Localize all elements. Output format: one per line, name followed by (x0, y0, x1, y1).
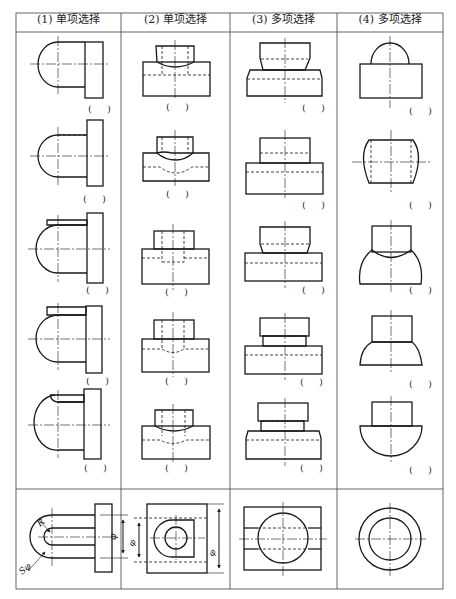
answer-slot-c1-r3[interactable]: ( ) (86, 284, 115, 295)
answer-slot-c1-r5[interactable]: ( ) (84, 462, 113, 473)
answer-slot-c3-r1[interactable]: ( ) (302, 102, 331, 113)
sphere-diameter-label: Sφ (17, 560, 34, 576)
answer-slot-c2-r3[interactable]: ( ) (165, 286, 194, 297)
col4-option-1 (360, 36, 422, 108)
col2-option-1 (143, 40, 210, 100)
answer-slot-c2-r5[interactable]: ( ) (165, 462, 194, 473)
answer-slot-c2-r2[interactable]: ( ) (166, 188, 195, 199)
drawing-svg: .o{stroke:#1a1a1a;stroke-width:1.3;fill:… (0, 0, 456, 599)
reference-view-col2 (134, 504, 224, 573)
diameter-label-col1: φ (108, 533, 118, 540)
answer-slot-c3-r3[interactable]: ( ) (302, 284, 331, 295)
col1-option-5 (28, 389, 110, 459)
col3-option-4 (245, 313, 322, 380)
answer-slot-c4-r3[interactable]: ( ) (409, 284, 438, 295)
answer-slot-c1-r1[interactable]: ( ) (88, 103, 117, 114)
col1-option-2 (30, 120, 110, 186)
col2-option-2 (143, 130, 209, 186)
col4-option-5 (360, 396, 422, 462)
radius-label: R (34, 516, 47, 529)
col3-option-2 (246, 130, 323, 198)
answer-slot-c4-r5[interactable]: ( ) (409, 464, 438, 475)
answer-slot-c4-r4[interactable]: ( ) (409, 378, 438, 389)
col2-option-4 (142, 312, 209, 377)
answer-slot-c3-r2[interactable]: ( ) (302, 199, 331, 210)
answer-slot-c3-r5[interactable]: ( ) (300, 462, 329, 473)
col1-option-3 (28, 213, 110, 283)
reference-view-col4 (355, 503, 426, 576)
table-grid (16, 13, 443, 589)
diameter-label-right: φ (206, 547, 218, 558)
drawing-sheet: (1) 单项选择 (2) 单项选择 (3) 多项选择 (4) 多项选择 .o{s… (0, 0, 456, 599)
reference-view-col3 (239, 502, 327, 576)
col1-option-1 (30, 36, 110, 98)
col3-option-5 (246, 398, 321, 466)
answer-slot-c1-r2[interactable]: ( ) (83, 193, 112, 204)
col4-option-4 (360, 310, 422, 372)
answer-slot-c2-r4[interactable]: ( ) (165, 375, 194, 386)
answer-slot-c1-r4[interactable]: ( ) (86, 375, 115, 386)
col1-option-4 (28, 303, 110, 373)
answer-slot-c3-r4[interactable]: ( ) (300, 376, 329, 387)
answer-slot-c4-r1[interactable]: ( ) (409, 105, 438, 116)
col3-option-1 (247, 38, 322, 103)
col3-option-3 (245, 221, 322, 288)
col4-option-2 (352, 130, 430, 193)
col2-option-3 (142, 224, 209, 290)
answer-slot-c2-r1[interactable]: ( ) (166, 101, 195, 112)
col2-option-5 (142, 404, 210, 464)
answer-slot-c4-r2[interactable]: ( ) (409, 199, 438, 210)
col4-option-3 (360, 220, 422, 292)
diameter-label-left: φ (126, 537, 138, 548)
